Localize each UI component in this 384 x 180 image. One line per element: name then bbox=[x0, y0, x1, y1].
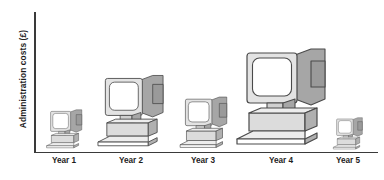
y-axis-label: Administration costs (£) bbox=[18, 9, 28, 149]
pictogram-chart: Administration costs (£) bbox=[0, 0, 384, 180]
x-tick-label-year-1: Year 1 bbox=[52, 156, 76, 165]
computer-icon-year-1 bbox=[45, 109, 83, 151]
x-tick-label-year-5: Year 5 bbox=[336, 156, 360, 165]
x-tick-label-year-2: Year 2 bbox=[119, 156, 143, 165]
x-tick-label-year-3: Year 3 bbox=[191, 156, 215, 165]
computer-icon-year-3 bbox=[178, 96, 229, 151]
x-axis-tick-labels: Year 1Year 2Year 3Year 4Year 5 bbox=[34, 156, 378, 176]
y-axis-line bbox=[34, 12, 36, 153]
x-axis-line bbox=[34, 152, 378, 154]
x-tick-label-year-4: Year 4 bbox=[269, 156, 293, 165]
computer-icon-year-5 bbox=[332, 117, 364, 151]
computer-icon-year-2 bbox=[95, 74, 166, 151]
computer-icon-year-4 bbox=[233, 47, 329, 151]
